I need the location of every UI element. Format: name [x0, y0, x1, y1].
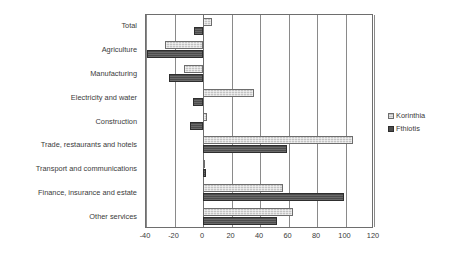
chart-row	[146, 63, 372, 87]
bar-korinthia	[203, 89, 254, 97]
category-label: Finance, insurance and estate	[38, 188, 137, 197]
category-label: Manufacturing	[90, 69, 137, 78]
legend-swatch-korinthia-icon	[388, 113, 394, 119]
bar-korinthia	[203, 136, 353, 144]
chart-row	[146, 158, 372, 182]
x-tick-label: 0	[200, 231, 204, 241]
x-tick-label: 20	[226, 231, 234, 241]
bar-korinthia	[203, 208, 293, 216]
value-axis: -40-20020406080100120	[145, 231, 373, 245]
bar-korinthia	[184, 65, 203, 73]
chart-row	[146, 134, 372, 158]
bar-fthiotis	[203, 145, 287, 153]
x-tick-label: 100	[338, 231, 350, 241]
chart-row	[146, 205, 372, 229]
bar-fthiotis	[203, 169, 206, 177]
legend-label: Fthiotis	[396, 124, 420, 133]
x-tick-label: 80	[312, 231, 320, 241]
bar-chart: TotalAgricultureManufacturingElectricity…	[0, 0, 453, 264]
legend-swatch-fthiotis-icon	[388, 126, 394, 132]
bar-korinthia	[203, 113, 207, 121]
bar-fthiotis	[194, 27, 203, 35]
bar-fthiotis	[203, 217, 277, 225]
category-label: Transport and communications	[36, 164, 137, 173]
bar-fthiotis	[169, 74, 203, 82]
legend-item-fthiotis[interactable]: Fthiotis	[388, 123, 450, 134]
category-label: Agriculture	[102, 45, 137, 54]
x-tick-label: -40	[140, 231, 151, 241]
bar-fthiotis	[147, 50, 203, 58]
chart-row	[146, 86, 372, 110]
category-label: Trade, restaurants and hotels	[41, 140, 137, 149]
bar-fthiotis	[203, 193, 344, 201]
x-tick-label: -20	[168, 231, 179, 241]
category-label: Construction	[96, 117, 138, 126]
chart-row	[146, 15, 372, 39]
category-axis: TotalAgricultureManufacturingElectricity…	[0, 14, 141, 228]
category-label: Electricity and water	[71, 93, 137, 102]
chart-row	[146, 181, 372, 205]
category-label: Total	[121, 21, 137, 30]
bar-fthiotis	[193, 98, 203, 106]
chart-row	[146, 39, 372, 63]
x-tick-label: 40	[255, 231, 263, 241]
x-tick-label: 120	[367, 231, 379, 241]
category-label: Other services	[89, 212, 137, 221]
legend-label: Korinthia	[396, 111, 425, 120]
gridline-120	[374, 15, 375, 227]
bar-korinthia	[203, 160, 205, 168]
plot-area	[145, 14, 373, 228]
chart-row	[146, 110, 372, 134]
bar-korinthia	[203, 18, 212, 26]
bar-fthiotis	[190, 122, 203, 130]
chart-legend: KorinthiaFthiotis	[388, 110, 450, 136]
bar-korinthia	[165, 41, 203, 49]
bar-korinthia	[203, 184, 283, 192]
x-tick-label: 60	[283, 231, 291, 241]
legend-item-korinthia[interactable]: Korinthia	[388, 110, 450, 121]
